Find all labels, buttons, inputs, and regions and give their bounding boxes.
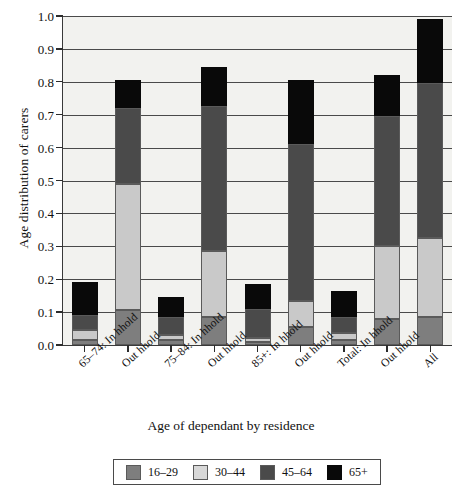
bar-segment <box>417 83 443 238</box>
legend-swatch-icon <box>193 465 208 480</box>
bar-segment <box>331 317 357 333</box>
y-axis-tick-label: 0.4 <box>38 207 54 220</box>
bar-segment <box>417 317 443 345</box>
legend-swatch-icon <box>126 465 141 480</box>
bar-segment <box>417 19 443 83</box>
bar-segment <box>115 80 141 108</box>
y-axis-tick-label: 0.2 <box>38 273 54 286</box>
bar-segment <box>245 284 271 309</box>
bar-segment <box>288 80 314 144</box>
y-axis-tick <box>56 81 63 82</box>
y-axis-tick <box>56 311 63 312</box>
legend-item: 16–29 <box>126 465 178 480</box>
bar-segment <box>374 75 400 116</box>
bar-segment <box>374 246 400 318</box>
bar-segment <box>245 309 271 339</box>
bar-segment <box>72 282 98 315</box>
chart-legend: 16–2930–4445–6465+ <box>113 459 381 485</box>
legend-label: 30–44 <box>215 465 245 480</box>
bar-segment <box>374 116 400 246</box>
bar-segment <box>72 330 98 340</box>
y-axis-tick <box>56 279 63 280</box>
y-axis-tick-label: 0.9 <box>38 42 54 55</box>
y-axis-tick-label: 0.7 <box>38 108 54 121</box>
y-axis-tick <box>56 15 63 16</box>
y-axis-tick <box>56 344 63 345</box>
y-axis-tick-label: 0.0 <box>38 339 54 352</box>
legend-label: 65+ <box>349 465 368 480</box>
bar-segment <box>72 315 98 330</box>
bar-5 <box>245 16 271 345</box>
bar-segment <box>245 338 271 341</box>
y-axis-tick <box>56 246 63 247</box>
legend-label: 16–29 <box>148 465 178 480</box>
bar-segment <box>201 106 227 251</box>
bar-segment <box>158 297 184 317</box>
y-axis-tick-label: 1.0 <box>38 10 54 23</box>
x-axis-title: Age of dependant by residence <box>0 418 462 434</box>
y-axis-tick-label: 0.1 <box>38 306 54 319</box>
legend-swatch-icon <box>327 465 342 480</box>
legend-label: 45–64 <box>282 465 312 480</box>
bar-segment <box>115 184 141 311</box>
bar-8 <box>374 16 400 345</box>
y-axis-tick <box>56 213 63 214</box>
plot-area: 0.00.10.20.30.40.50.60.70.80.91.0 <box>62 16 452 346</box>
legend-item: 30–44 <box>193 465 245 480</box>
y-axis-title: Age distribution of carers <box>16 68 32 288</box>
bar-segment <box>115 108 141 184</box>
bar-1 <box>72 16 98 345</box>
y-axis-tick-label: 0.8 <box>38 75 54 88</box>
y-axis-tick <box>56 180 63 181</box>
bar-6 <box>288 16 314 345</box>
bar-segment <box>201 251 227 317</box>
bar-2 <box>115 16 141 345</box>
bar-7 <box>331 16 357 345</box>
y-axis-tick <box>56 147 63 148</box>
y-axis-tick-label: 0.3 <box>38 240 54 253</box>
bar-segment <box>331 291 357 317</box>
bar-3 <box>158 16 184 345</box>
y-axis-tick-label: 0.5 <box>38 174 54 187</box>
bar-9 <box>417 16 443 345</box>
bar-segment <box>201 67 227 106</box>
legend-item: 45–64 <box>260 465 312 480</box>
bar-4 <box>201 16 227 345</box>
y-axis-tick <box>56 114 63 115</box>
y-axis-tick <box>56 48 63 49</box>
bar-segment <box>158 317 184 335</box>
y-axis-tick-label: 0.6 <box>38 141 54 154</box>
legend-swatch-icon <box>260 465 275 480</box>
legend-item: 65+ <box>327 465 368 480</box>
bar-segment <box>417 238 443 317</box>
x-axis-tick-label: All <box>421 351 440 370</box>
bar-segment <box>288 144 314 300</box>
stacked-bar-chart: Age distribution of carers 0.00.10.20.30… <box>0 0 462 495</box>
